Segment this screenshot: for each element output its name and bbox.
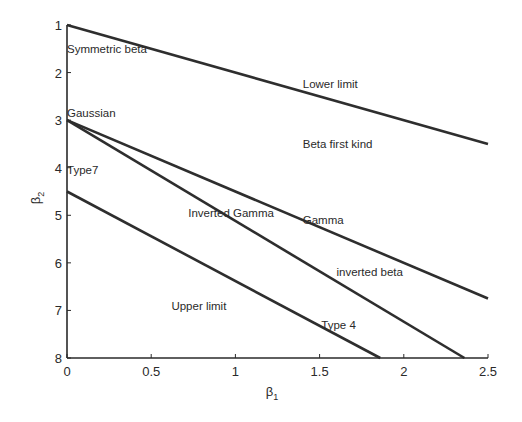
plot-area: 12345678 00.511.522.5 Symmetric betaLowe…	[28, 18, 497, 402]
annotation-label: Symmetric beta	[67, 43, 147, 55]
x-tick-label: 2.5	[479, 364, 497, 379]
y-tick-label: 1	[55, 18, 62, 33]
y-tick-label: 2	[55, 66, 62, 81]
annotations: Symmetric betaLower limitGaussianBeta fi…	[67, 43, 404, 331]
annotation-label: Inverted Gamma	[188, 207, 274, 219]
annotation-label: Gaussian	[67, 107, 116, 119]
series-line	[67, 120, 488, 298]
annotation-label: Type7	[67, 164, 98, 176]
annotation-label: Gamma	[303, 214, 345, 226]
x-tick-label: 0.5	[142, 364, 160, 379]
x-tick-label: 1	[232, 364, 239, 379]
annotation-label: Beta first kind	[303, 138, 373, 150]
x-axis-label: β1	[266, 384, 279, 402]
series-line	[67, 120, 464, 358]
y-tick-label: 8	[55, 351, 62, 366]
annotation-label: inverted beta	[336, 266, 403, 278]
y-tick-label: 5	[55, 208, 62, 223]
y-tick-label: 7	[55, 303, 62, 318]
chart: 12345678 00.511.522.5 Symmetric betaLowe…	[0, 0, 522, 422]
y-tick-label: 6	[55, 256, 62, 271]
x-tick-label: 1.5	[311, 364, 329, 379]
annotation-label: Lower limit	[303, 78, 359, 90]
y-tick-label: 3	[55, 113, 62, 128]
series-lines	[67, 25, 488, 358]
annotation-label: Type 4	[321, 319, 356, 331]
annotation-label: Upper limit	[171, 300, 227, 312]
x-tick-label: 2	[400, 364, 407, 379]
y-tick-label: 4	[55, 161, 62, 176]
y-axis-label: β2	[28, 192, 46, 205]
x-tick-label: 0	[63, 364, 70, 379]
